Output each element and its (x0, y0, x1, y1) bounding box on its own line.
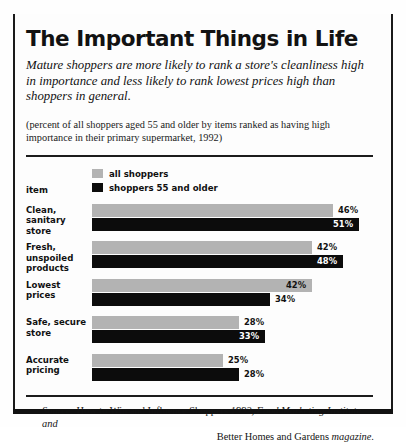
bar-all-shoppers (92, 354, 223, 367)
value-label-all-shoppers: 42% (317, 242, 337, 253)
category-label-line1: Accurate (26, 355, 90, 366)
category-label-line1: Clean, sanitary (26, 205, 90, 226)
category-label-line1: Fresh, unspoiled (26, 242, 90, 263)
source-line2-italic: magazine. (332, 431, 374, 442)
bar-group: 25%28% (92, 354, 382, 381)
value-label-all-shoppers: 28% (244, 317, 264, 328)
value-label-all-shoppers: 42% (286, 280, 306, 291)
bar-shoppers-55-and-older (92, 255, 343, 268)
value-label-shoppers-55-and-older: 48% (317, 256, 337, 267)
chart-row: Safe, securestore28%33% (26, 316, 382, 354)
value-label-shoppers-55-and-older: 51% (333, 219, 353, 230)
chart-legend: item all shoppers shoppers 55 and older (26, 168, 382, 200)
source-line2-roman: Better Homes and Gardens (217, 431, 332, 442)
category-label-line1: Lowest prices (26, 280, 90, 301)
chart-row: Fresh, unspoiledproducts42%48% (26, 241, 382, 279)
category-label-line2: products (26, 263, 90, 274)
source-line1-roman: How to Win and Influence Shoppers (74, 405, 231, 416)
category-label: Accuratepricing (26, 355, 90, 376)
figure-content: The Important Things in Life Mature shop… (26, 27, 382, 443)
bar-group: 42%48% (92, 241, 382, 268)
value-label-all-shoppers: 25% (228, 355, 248, 366)
category-label-line1: Safe, secure (26, 317, 90, 328)
bar-shoppers-55-and-older (92, 368, 239, 381)
legend-label-shoppers-55-and-older: shoppers 55 and older (109, 183, 218, 193)
value-label-shoppers-55-and-older: 33% (239, 331, 259, 342)
legend-label-all-shoppers: all shoppers (109, 169, 168, 179)
black-swatch-icon (92, 183, 103, 192)
bar-shoppers-55-and-older (92, 293, 270, 306)
figure-deck: Mature shoppers are more likely to rank … (26, 58, 370, 105)
category-label: Clean, sanitarystore (26, 205, 90, 237)
value-label-shoppers-55-and-older: 34% (275, 294, 295, 305)
bar-line: 33% (92, 330, 382, 343)
figure-title: The Important Things in Life (26, 27, 382, 51)
source-note: Source: How to Win and Influence Shopper… (26, 404, 374, 443)
bar-line: 42% (92, 241, 382, 254)
category-label-line2: store (26, 328, 90, 339)
source-prefix: Source: (42, 405, 74, 416)
bar-line: 46% (92, 204, 382, 217)
bar-line: 28% (92, 368, 382, 381)
category-label-line2: pricing (26, 365, 90, 376)
bar-chart: Clean, sanitarystore46%51%Fresh, unspoil… (26, 204, 382, 392)
bar-group: 28%33% (92, 316, 382, 343)
axis-label-item: item (26, 185, 48, 195)
bar-group: 42%34% (92, 279, 382, 306)
bar-line: 48% (92, 255, 382, 268)
chart-row: Accuratepricing25%28% (26, 354, 382, 392)
bar-group: 46%51% (92, 204, 382, 231)
bar-line: 34% (92, 293, 382, 306)
category-label: Lowest prices (26, 280, 90, 301)
header-divider (26, 155, 373, 157)
bar-line: 42% (92, 279, 382, 292)
bar-all-shoppers (92, 316, 239, 329)
figure-note: (percent of all shoppers aged 55 and old… (26, 118, 356, 145)
bar-line: 28% (92, 316, 382, 329)
bar-all-shoppers (92, 241, 312, 254)
category-label: Fresh, unspoiledproducts (26, 242, 90, 274)
bar-line: 25% (92, 354, 382, 367)
light-gray-swatch-icon (92, 169, 103, 178)
bar-line: 51% (92, 218, 382, 231)
bar-all-shoppers (92, 204, 333, 217)
bar-all-shoppers (92, 279, 312, 292)
value-label-shoppers-55-and-older: 28% (244, 369, 264, 380)
legend-item-all-shoppers: all shoppers (92, 169, 168, 179)
source-divider (26, 395, 373, 397)
legend-item-shoppers-55-and-older: shoppers 55 and older (92, 183, 218, 193)
category-label: Safe, securestore (26, 317, 90, 338)
chart-row: Clean, sanitarystore46%51% (26, 204, 382, 242)
bar-shoppers-55-and-older (92, 218, 359, 231)
chart-row: Lowest prices42%34% (26, 279, 382, 317)
category-label-line2: store (26, 226, 90, 237)
value-label-all-shoppers: 46% (338, 205, 358, 216)
